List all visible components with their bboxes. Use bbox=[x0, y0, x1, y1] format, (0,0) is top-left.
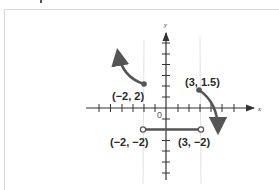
closed-point-neg2-2 bbox=[141, 81, 147, 87]
point-label-neg2-2: (−2, 2) bbox=[112, 90, 144, 102]
point-label-3-neg2: (3, −2) bbox=[178, 136, 210, 148]
right-curve bbox=[199, 90, 218, 130]
y-axis-label: y bbox=[163, 21, 168, 29]
open-point-neg2-neg2 bbox=[140, 127, 145, 132]
closed-point-3-1.5 bbox=[196, 87, 202, 93]
point-label-neg2-neg2: (−2, −2) bbox=[110, 136, 149, 148]
guide-lines bbox=[143, 36, 201, 184]
origin-label: 0 bbox=[157, 110, 162, 120]
x-axis-label: x bbox=[257, 105, 262, 113]
x-axis: x bbox=[86, 104, 262, 113]
open-point-3-neg2 bbox=[198, 127, 203, 132]
piecewise-function-graph: x y 0 (−2, 2) (3, 1.5) (−2, −2) (3, −2) bbox=[0, 0, 279, 190]
y-axis: y bbox=[162, 21, 170, 180]
left-curve bbox=[118, 53, 144, 84]
point-label-3-1.5: (3, 1.5) bbox=[185, 76, 220, 88]
